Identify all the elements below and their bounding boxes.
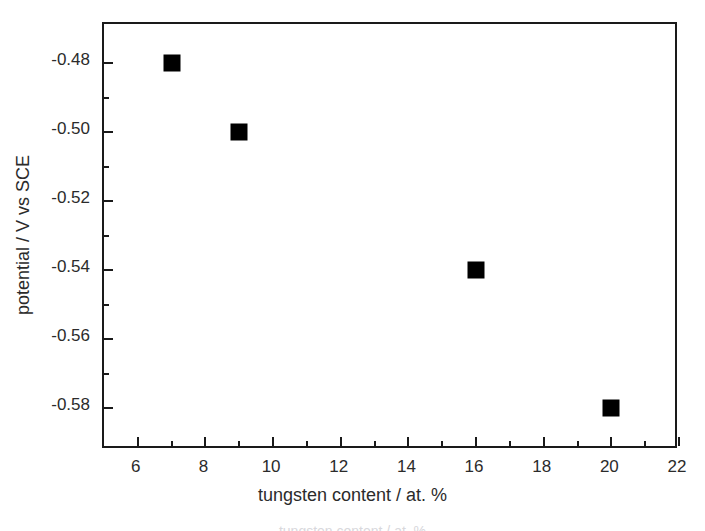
y-tick-label: -0.48 — [10, 50, 90, 70]
y-tick-minor — [104, 304, 109, 306]
x-tick-label: 16 — [454, 457, 494, 477]
y-tick-minor — [104, 166, 109, 168]
x-tick-minor — [441, 441, 443, 446]
x-tick-minor — [238, 441, 240, 446]
x-tick-label: 12 — [319, 457, 359, 477]
y-tick-major — [104, 269, 113, 271]
y-tick-minor — [104, 373, 109, 375]
data-point-marker — [603, 400, 620, 417]
y-tick-minor — [104, 97, 109, 99]
y-tick-major — [104, 338, 113, 340]
x-tick-major — [272, 437, 274, 446]
x-tick-label: 20 — [589, 457, 629, 477]
x-tick-minor — [306, 441, 308, 446]
y-tick-major — [104, 131, 113, 133]
x-tick-major — [475, 437, 477, 446]
y-axis-title: potential / V vs SCE — [13, 85, 34, 385]
x-tick-major — [610, 437, 612, 446]
x-tick-minor — [577, 441, 579, 446]
data-point-marker — [163, 55, 180, 72]
y-tick-major — [104, 200, 113, 202]
x-tick-label: 10 — [251, 457, 291, 477]
x-axis-title: tungsten content / at. % — [0, 485, 705, 506]
x-tick-major — [407, 437, 409, 446]
x-tick-major — [137, 437, 139, 446]
x-tick-minor — [509, 441, 511, 446]
data-point-marker — [231, 124, 248, 141]
x-tick-minor — [374, 441, 376, 446]
y-tick-major — [104, 407, 113, 409]
y-tick-label: -0.58 — [10, 395, 90, 415]
x-tick-minor — [644, 441, 646, 446]
data-point-marker — [468, 262, 485, 279]
x-tick-major — [340, 437, 342, 446]
x-tick-major — [204, 437, 206, 446]
figure-scatter-potential-vs-tungsten: -0.48-0.50-0.52-0.54-0.56-0.58 681012141… — [0, 0, 705, 531]
plot-area — [102, 22, 677, 448]
x-tick-label: 22 — [657, 457, 697, 477]
cut-off-caption: tungsten content / at. % — [0, 516, 705, 531]
x-tick-major — [543, 437, 545, 446]
x-tick-label: 8 — [183, 457, 223, 477]
x-tick-major — [678, 437, 680, 446]
y-tick-minor — [104, 235, 109, 237]
x-tick-label: 18 — [522, 457, 562, 477]
x-tick-label: 14 — [386, 457, 426, 477]
y-tick-major — [104, 62, 113, 64]
x-tick-label: 6 — [116, 457, 156, 477]
x-tick-minor — [171, 441, 173, 446]
